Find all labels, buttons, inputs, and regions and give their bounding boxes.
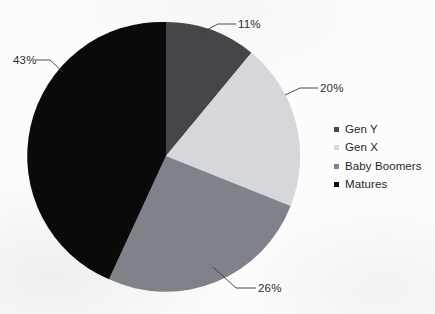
pie-label-baby-boomers: 26% — [258, 282, 282, 294]
chart-page: 11% 20% 26% 43% Gen Y Gen X Baby Boomers… — [0, 0, 435, 314]
pie-label-gen-y: 11% — [238, 18, 261, 30]
legend-swatch-icon — [334, 182, 339, 187]
legend-item-matures[interactable]: Matures — [334, 176, 435, 195]
legend-item-label: Baby Boomers — [345, 161, 422, 173]
legend-swatch-icon — [334, 127, 339, 132]
legend-item-gen-x[interactable]: Gen X — [334, 139, 435, 158]
legend-item-label: Gen X — [345, 142, 378, 154]
legend-item-baby-boomers[interactable]: Baby Boomers — [334, 157, 435, 176]
leader-line-gen-x — [285, 88, 318, 95]
pie-label-gen-x: 20% — [320, 82, 344, 94]
legend-item-label: Gen Y — [345, 124, 378, 136]
chart-legend: Gen Y Gen X Baby Boomers Matures — [334, 120, 435, 194]
legend-item-label: Matures — [345, 179, 387, 191]
legend-swatch-icon — [334, 145, 339, 150]
legend-swatch-icon — [334, 164, 339, 169]
pie-label-matures: 43% — [13, 54, 37, 66]
legend-item-gen-y[interactable]: Gen Y — [334, 120, 435, 139]
